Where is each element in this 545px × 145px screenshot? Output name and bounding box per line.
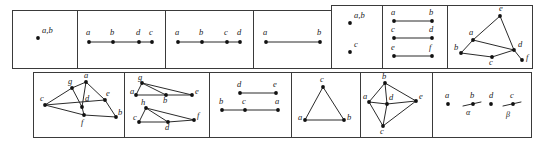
vertex-label: b xyxy=(110,27,114,37)
graph-cell-cell-5: a,bc xyxy=(332,6,383,69)
graph-node xyxy=(520,58,524,62)
graph-node xyxy=(392,36,396,40)
cell-border xyxy=(166,11,254,69)
edge-label: β xyxy=(505,110,510,119)
vertex-label: a xyxy=(445,90,449,100)
graph-node xyxy=(134,93,138,97)
graph-node xyxy=(80,105,84,109)
vertex-label: b xyxy=(347,112,351,122)
vertex-label: a xyxy=(298,112,302,122)
graph-node xyxy=(348,21,352,25)
vertex-label: a xyxy=(175,27,179,37)
vertex-label: e xyxy=(106,88,110,98)
vertex-label: a xyxy=(263,27,267,37)
graph-cell-cell-9: gabehcdf xyxy=(125,72,210,138)
vertex-label: e xyxy=(419,91,423,101)
graph-node xyxy=(383,81,387,85)
vertex-label: b xyxy=(317,27,321,37)
vertex-label: e xyxy=(499,3,503,13)
vertex-label: b xyxy=(118,107,122,117)
vertex-label: c xyxy=(242,96,246,106)
vertex-label: c xyxy=(40,93,44,103)
graph-node xyxy=(111,40,115,44)
graph-node xyxy=(274,91,278,95)
vertex-label: a xyxy=(130,86,134,96)
graph-node xyxy=(264,40,268,44)
vertex-label: c xyxy=(149,27,153,37)
graph-node xyxy=(176,40,180,44)
graph-node xyxy=(243,108,247,112)
vertex-label: h xyxy=(141,97,145,107)
graph-node xyxy=(87,40,91,44)
graph-cell-cell-7: eabdcf xyxy=(448,3,533,69)
graph-cell-cell-10: debca xyxy=(210,73,292,138)
graph-node xyxy=(498,14,502,18)
vertex-label: a xyxy=(86,27,90,37)
vertex-label: g xyxy=(68,76,72,86)
vertex-label: a,b xyxy=(42,25,53,35)
vertex-label: c xyxy=(489,57,493,67)
graph-node xyxy=(471,38,475,42)
graph-node xyxy=(276,108,280,112)
vertex-label: c xyxy=(391,24,395,34)
graph-node xyxy=(471,102,475,106)
graph-cell-cell-4: ab xyxy=(254,11,332,69)
graph-node xyxy=(385,102,389,106)
vertex-label: b xyxy=(470,90,474,100)
cell-border xyxy=(292,73,361,138)
graph-node xyxy=(36,36,40,40)
graph-node xyxy=(137,120,141,124)
vertex-label: c xyxy=(380,126,384,136)
graph-node xyxy=(70,86,74,90)
vertex-label: c xyxy=(224,27,228,37)
graph-node xyxy=(318,40,322,44)
graph-cell-cell-8: gacdefb xyxy=(34,70,125,138)
graph-node xyxy=(84,80,88,84)
vertex-label: b xyxy=(382,71,386,81)
graph-node xyxy=(511,102,515,106)
graph-cell-cell-6: abcdef xyxy=(383,6,448,69)
figure-canvas: a,babdcabcdaba,bcabcdefeabdcfgacdefbgabe… xyxy=(0,0,545,145)
graph-node xyxy=(392,19,396,23)
graph-node xyxy=(238,91,242,95)
graph-node xyxy=(238,40,242,44)
vertex-label: a xyxy=(363,91,367,101)
vertex-label: b xyxy=(163,95,167,105)
graph-node xyxy=(150,40,154,44)
graph-cell-cell-1: a,b xyxy=(13,11,78,69)
vertex-label: b xyxy=(219,96,223,106)
vertex-label: a,b xyxy=(354,10,365,20)
graph-node xyxy=(348,50,352,54)
graph-node xyxy=(321,85,325,89)
graph-node xyxy=(342,118,346,122)
graph-node xyxy=(103,98,107,102)
vertex-label: b xyxy=(454,42,458,52)
graph-cell-cell-11: cab xyxy=(292,73,361,138)
vertex-label: c xyxy=(320,74,324,84)
vertex-label: g xyxy=(138,72,142,82)
vertex-label: b xyxy=(199,27,203,37)
graph-node xyxy=(430,19,434,23)
graph-node xyxy=(430,54,434,58)
graph-node xyxy=(430,36,434,40)
cell-border xyxy=(13,11,78,69)
vertex-label: a xyxy=(84,70,88,80)
graph-node xyxy=(303,118,307,122)
vertex-label: c xyxy=(354,39,358,49)
vertex-label: a xyxy=(391,7,395,17)
graph-node xyxy=(225,40,229,44)
graph-node xyxy=(220,108,224,112)
vertex-label: a xyxy=(275,96,279,106)
vertex-label: c xyxy=(510,90,514,100)
graph-node xyxy=(43,103,47,107)
vertex-label: e xyxy=(391,42,395,52)
graph-node xyxy=(414,99,418,103)
graph-figure-grid: a,babdcabcdaba,bcabcdefeabdcfgacdefbgabe… xyxy=(0,0,545,145)
cell-border xyxy=(254,11,332,69)
cell-border xyxy=(78,11,166,69)
vertex-label: a xyxy=(469,27,473,37)
graph-node xyxy=(137,40,141,44)
graph-node xyxy=(489,102,493,106)
graph-node xyxy=(192,118,196,122)
vertex-label: c xyxy=(133,112,137,122)
